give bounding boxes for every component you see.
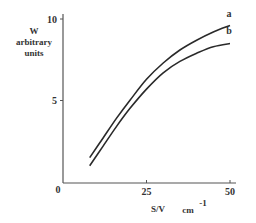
origin-label: 0 (56, 184, 61, 195)
y-axis-title-line: arbitrary (16, 37, 52, 47)
curve-b (90, 44, 230, 166)
curve-a (90, 26, 230, 158)
y-axis-title-line: units (24, 48, 44, 58)
axes: 51002550 (47, 14, 236, 198)
chart: 51002550 Warbitraryunits S/Vcm-1 ab (0, 0, 256, 223)
x-axis-title: S/Vcm-1 (151, 198, 207, 215)
curve-label-a: a (227, 8, 232, 19)
curve-label-b: b (226, 25, 232, 36)
y-tick-label: 5 (52, 95, 57, 106)
x-axis-title-main: S/V (151, 204, 166, 214)
x-axis-title-exponent: -1 (199, 198, 207, 208)
y-tick-label: 10 (47, 14, 57, 25)
y-axis-title: Warbitraryunits (16, 26, 52, 58)
y-axis-title-line: W (30, 26, 39, 36)
x-axis-title-unit: cm (182, 205, 194, 215)
x-tick-label: 25 (142, 186, 152, 197)
x-tick-label: 50 (225, 186, 235, 197)
series-group: ab (90, 8, 233, 166)
